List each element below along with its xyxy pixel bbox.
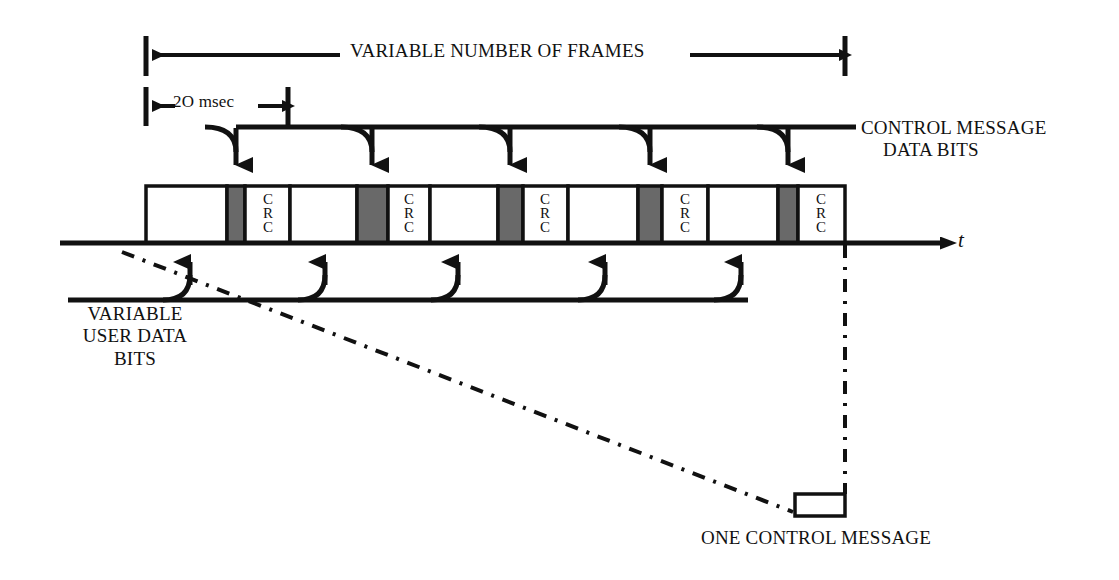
user-data-block xyxy=(708,186,778,243)
control-message-label-line2: DATA BITS xyxy=(883,139,1046,161)
user-data-block xyxy=(290,186,357,243)
crc-label: C R C xyxy=(257,193,279,234)
frame-duration-label: 2O msec xyxy=(173,92,234,112)
crc-label: C R C xyxy=(534,193,556,234)
variable-user-data-bits-label: VARIABLEUSER DATABITS xyxy=(72,303,198,370)
user-elbow-2 xyxy=(298,275,325,300)
user-data-label-line1: VARIABLE xyxy=(72,303,198,325)
user-data-feeder xyxy=(68,262,748,300)
frame-structure-diagram: VARIABLE NUMBER OF FRAMES 2O msec CONTRO… xyxy=(0,0,1119,580)
user-data-block xyxy=(146,186,227,243)
user-data-label-line3: BITS xyxy=(72,348,198,370)
user-data-block xyxy=(568,186,638,243)
callout-leader-diagonal xyxy=(122,252,793,512)
user-elbow-3 xyxy=(431,275,458,300)
user-data-label-line2: USER DATA xyxy=(72,325,198,347)
control-elbow-5 xyxy=(757,127,788,152)
one-control-message-box xyxy=(795,494,845,516)
control-message-block xyxy=(357,186,388,243)
user-elbow-4 xyxy=(578,275,605,300)
time-axis-label: t xyxy=(958,228,964,253)
variable-frames-label: VARIABLE NUMBER OF FRAMES xyxy=(350,40,644,62)
one-control-message-label: ONE CONTROL MESSAGE xyxy=(701,527,931,549)
control-elbow-2 xyxy=(341,127,372,152)
control-message-block xyxy=(498,186,523,243)
crc-label: C R C xyxy=(674,193,696,234)
control-message-data-bits-label: CONTROL MESSAGEDATA BITS xyxy=(861,117,1046,162)
user-elbow-5 xyxy=(714,275,741,300)
diagram-canvas xyxy=(0,0,1119,580)
callout-leaders xyxy=(122,245,845,512)
frame-bar xyxy=(146,186,845,243)
control-message-label-line1: CONTROL MESSAGE xyxy=(861,117,1046,138)
control-message-block xyxy=(638,186,662,243)
control-message-block xyxy=(778,186,798,243)
control-message-block xyxy=(227,186,245,243)
control-message-feeder xyxy=(205,127,856,165)
crc-label: C R C xyxy=(810,193,832,234)
control-elbow-1 xyxy=(205,127,236,152)
user-data-block xyxy=(430,186,498,243)
crc-label: C R C xyxy=(398,193,420,234)
one-control-message-callout xyxy=(795,494,845,516)
control-elbow-3 xyxy=(479,127,510,152)
control-elbow-4 xyxy=(619,127,650,152)
